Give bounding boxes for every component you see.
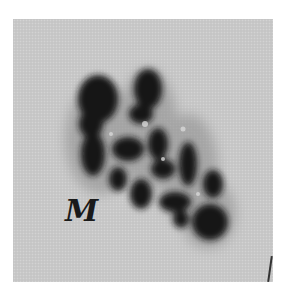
micrograph-panel: M [13,19,273,282]
figure-label: M [65,193,97,228]
chromosome-cluster-image [13,19,273,282]
